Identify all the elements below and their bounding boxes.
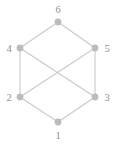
graph-node-label-3: 3	[104, 92, 109, 103]
graph-node-label-4: 4	[6, 43, 12, 54]
graph-node-label-5: 5	[104, 43, 109, 54]
graph-node-5[interactable]	[92, 45, 99, 52]
graph-canvas: 123456	[0, 0, 116, 146]
graph-node-4[interactable]	[17, 45, 24, 52]
graph-edge	[58, 97, 95, 122]
graph-node-label-2: 2	[6, 92, 11, 103]
graph-node-label-6: 6	[55, 4, 60, 15]
graph-node-3[interactable]	[92, 94, 99, 101]
graph-edge	[20, 97, 58, 122]
graph-node-2[interactable]	[17, 94, 24, 101]
edges-group	[20, 22, 95, 122]
graph-node-1[interactable]	[55, 119, 62, 126]
graph-node-label-1: 1	[55, 130, 60, 141]
graph-figure: 123456	[0, 0, 116, 146]
graph-edge	[58, 22, 95, 48]
graph-edge	[20, 22, 58, 48]
graph-node-6[interactable]	[55, 19, 62, 26]
